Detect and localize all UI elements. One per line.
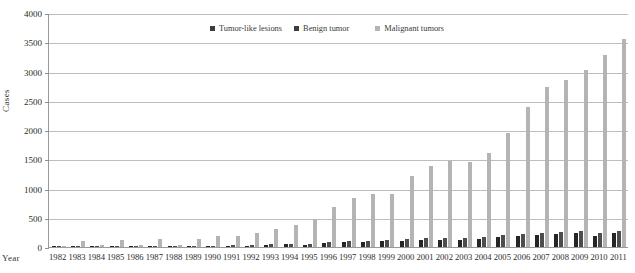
legend-label-benign-tumor: Benign tumor xyxy=(303,24,349,33)
legend-item-tumor-like-lesions: Tumor-like lesions xyxy=(210,24,282,33)
bar-group xyxy=(320,14,339,247)
x-axis-tick-label: 1998 xyxy=(358,252,375,262)
bar xyxy=(482,237,486,247)
x-axis-tick-label: 1996 xyxy=(320,252,337,262)
bar xyxy=(153,246,157,247)
bar xyxy=(405,239,409,247)
x-axis-tick-label: 2003 xyxy=(455,252,472,262)
bar xyxy=(274,229,278,247)
bar xyxy=(187,246,191,247)
bar-group xyxy=(552,14,571,247)
bar xyxy=(448,161,452,247)
bar xyxy=(303,245,307,247)
y-axis-tick-label: 1500 xyxy=(0,155,42,165)
legend-swatch-icon-malignant-tumors xyxy=(375,26,380,31)
bar xyxy=(545,87,549,247)
bar xyxy=(501,235,505,247)
bar xyxy=(371,194,375,247)
bar xyxy=(216,236,220,247)
x-axis-tick-label: 1990 xyxy=(204,252,221,262)
y-axis-tick-label: 2500 xyxy=(0,97,42,107)
bar-group xyxy=(300,14,319,247)
bar xyxy=(110,246,114,247)
x-axis-tick-label: 1989 xyxy=(184,252,201,262)
bar-group xyxy=(262,14,281,247)
x-axis-tick-label: 2000 xyxy=(397,252,414,262)
bar xyxy=(424,238,428,247)
bar xyxy=(168,246,172,247)
bar xyxy=(284,244,288,247)
bar xyxy=(236,236,240,247)
bar-group xyxy=(378,14,397,247)
bar xyxy=(554,234,558,247)
x-axis-tick-label: 1999 xyxy=(378,252,395,262)
bar xyxy=(308,244,312,247)
bar xyxy=(540,233,544,247)
x-axis-tick-label: 2007 xyxy=(532,252,549,262)
bar xyxy=(496,237,500,247)
bar xyxy=(158,239,162,247)
bar xyxy=(574,233,578,247)
bar xyxy=(322,243,326,247)
bar xyxy=(506,133,510,247)
bar xyxy=(100,245,104,247)
bar xyxy=(289,244,293,248)
legend-item-malignant-tumors: Malignant tumors xyxy=(375,24,444,33)
x-axis-tick-label: 1984 xyxy=(88,252,105,262)
bar xyxy=(526,107,530,247)
x-axis-tick-label: 1988 xyxy=(165,252,182,262)
bar xyxy=(593,236,597,247)
bar xyxy=(584,70,588,247)
bar xyxy=(269,244,273,247)
x-axis-tick-label: 1995 xyxy=(300,252,317,262)
bar xyxy=(579,231,583,247)
bar xyxy=(264,245,268,247)
bar xyxy=(129,246,133,247)
bar xyxy=(134,246,138,247)
bar-group xyxy=(610,14,629,247)
bar xyxy=(521,234,525,247)
x-axis-tick-label: 1983 xyxy=(68,252,85,262)
bar xyxy=(419,240,423,247)
bar-group xyxy=(184,14,203,247)
plot-area xyxy=(48,14,628,248)
bar xyxy=(516,236,520,247)
bar xyxy=(226,246,230,247)
bar-group xyxy=(358,14,377,247)
bar-group xyxy=(571,14,590,247)
x-axis-tick-label: 2002 xyxy=(436,252,453,262)
x-axis-tick-label: 2001 xyxy=(416,252,433,262)
y-axis-tick-label: 3000 xyxy=(0,68,42,78)
bar-group xyxy=(455,14,474,247)
bars-layer xyxy=(49,14,628,247)
bar xyxy=(76,246,80,247)
x-axis-tick-label: 1986 xyxy=(126,252,143,262)
bar xyxy=(622,39,626,247)
bar xyxy=(458,240,462,247)
x-axis-tick-label: 1994 xyxy=(281,252,298,262)
bar xyxy=(173,246,177,247)
bar xyxy=(598,233,602,247)
bar xyxy=(192,246,196,247)
bar-group xyxy=(436,14,455,247)
x-axis-tick-label: 2011 xyxy=(610,252,627,262)
bar-group xyxy=(513,14,532,247)
bar-group xyxy=(416,14,435,247)
x-axis-tick-label: 2004 xyxy=(474,252,491,262)
bar xyxy=(245,246,249,247)
bar xyxy=(463,238,467,247)
bar-group xyxy=(532,14,551,247)
legend-swatch-icon-benign-tumor xyxy=(294,26,299,31)
bar xyxy=(429,166,433,247)
legend-label-tumor-like-lesions: Tumor-like lesions xyxy=(219,24,282,33)
bar-group xyxy=(49,14,68,247)
bar xyxy=(612,233,616,247)
bar xyxy=(385,240,389,247)
bar xyxy=(332,207,336,247)
bar xyxy=(443,238,447,247)
bar xyxy=(148,246,152,247)
bar-group xyxy=(107,14,126,247)
bar xyxy=(477,239,481,247)
bar xyxy=(390,194,394,247)
bar-group xyxy=(494,14,513,247)
